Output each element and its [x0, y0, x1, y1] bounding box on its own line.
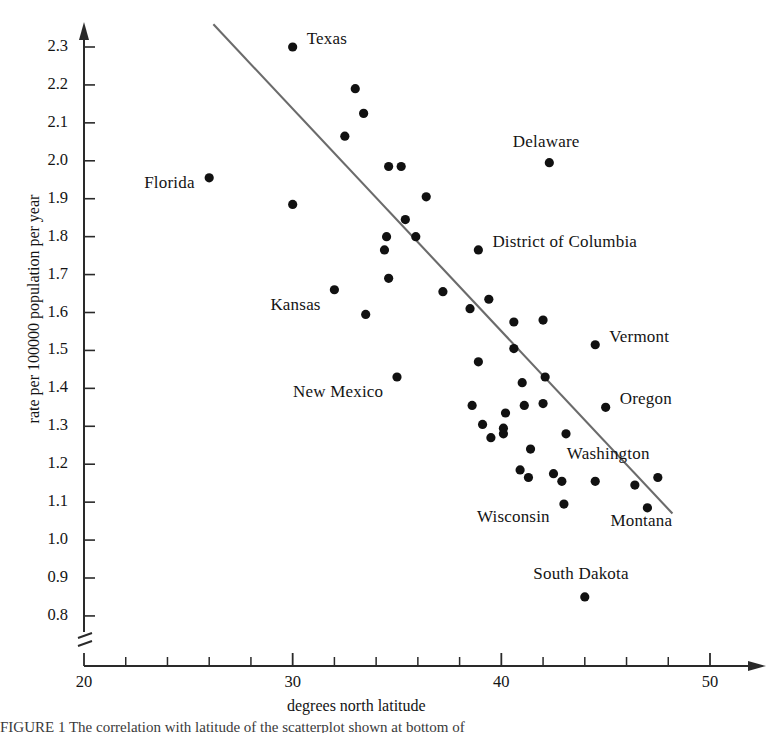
point-label-montana: Montana: [610, 511, 672, 531]
x-axis-ticks: [84, 653, 710, 666]
data-point: [526, 444, 535, 453]
data-point: [359, 109, 368, 118]
y-tick-label: 1.8: [22, 226, 68, 246]
data-point: [518, 378, 527, 387]
data-point-labeled: [559, 499, 568, 508]
point-label-new-mexico: New Mexico: [293, 382, 383, 402]
data-point: [499, 429, 508, 438]
y-tick-label: 1.9: [22, 188, 68, 208]
data-point: [484, 295, 493, 304]
data-point: [411, 232, 420, 241]
y-tick-label: 1.1: [22, 491, 68, 511]
y-tick-label: 2.3: [22, 36, 68, 56]
x-axis-title: degrees north latitude: [287, 697, 426, 715]
data-point-labeled: [474, 245, 483, 254]
y-tick-label: 1.5: [22, 339, 68, 359]
y-tick-label: 0.8: [22, 605, 68, 625]
x-tick-label: 30: [273, 672, 313, 692]
data-point-labeled: [288, 42, 297, 51]
scatter-plot-canvas: [0, 0, 774, 733]
x-tick-label: 50: [690, 672, 730, 692]
point-label-washington: Washington: [567, 444, 650, 464]
data-point: [380, 245, 389, 254]
data-point: [538, 315, 547, 324]
data-point: [340, 132, 349, 141]
data-point-labeled: [580, 592, 589, 601]
data-point: [591, 477, 600, 486]
data-point-labeled: [205, 173, 214, 182]
point-label-district-of-columbia: District of Columbia: [492, 232, 637, 252]
data-points: [205, 42, 663, 601]
data-point: [557, 477, 566, 486]
data-point: [422, 192, 431, 201]
data-point-labeled: [330, 285, 339, 294]
data-point-labeled: [545, 158, 554, 167]
data-point: [509, 317, 518, 326]
y-tick-label: 1.6: [22, 302, 68, 322]
y-tick-label: 1.0: [22, 529, 68, 549]
y-tick-label: 1.2: [22, 453, 68, 473]
y-tick-label: 1.7: [22, 264, 68, 284]
data-point: [361, 310, 370, 319]
data-point-labeled: [392, 372, 401, 381]
data-point: [524, 473, 533, 482]
data-point: [401, 215, 410, 224]
data-point: [509, 344, 518, 353]
data-point: [630, 480, 639, 489]
point-label-kansas: Kansas: [270, 295, 320, 315]
y-axis-ticks: [84, 47, 95, 616]
point-label-vermont: Vermont: [609, 327, 669, 347]
x-tick-label: 40: [481, 672, 521, 692]
y-tick-label: 2.0: [22, 150, 68, 170]
point-label-oregon: Oregon: [620, 389, 672, 409]
data-point: [288, 200, 297, 209]
data-point: [397, 162, 406, 171]
x-tick-label: 20: [64, 672, 104, 692]
point-label-florida: Florida: [144, 173, 195, 193]
y-axis-arrow: [79, 22, 89, 40]
y-tick-label: 1.4: [22, 377, 68, 397]
data-point: [438, 287, 447, 296]
point-label-delaware: Delaware: [513, 132, 580, 152]
data-point: [486, 433, 495, 442]
data-point: [561, 429, 570, 438]
data-point-labeled: [591, 340, 600, 349]
point-label-wisconsin: Wisconsin: [477, 507, 550, 527]
point-label-south-dakota: South Dakota: [533, 564, 628, 584]
data-point: [478, 420, 487, 429]
data-point: [516, 465, 525, 474]
point-label-texas: Texas: [307, 29, 347, 49]
data-point: [351, 84, 360, 93]
data-point: [501, 408, 510, 417]
data-point: [520, 401, 529, 410]
y-axis-break-icon: [78, 633, 92, 646]
y-tick-label: 0.9: [22, 567, 68, 587]
regression-trend-line: [213, 24, 672, 513]
y-tick-label: 1.3: [22, 415, 68, 435]
data-point: [384, 162, 393, 171]
figure-caption: FIGURE 1 The correlation with latitude o…: [0, 719, 774, 733]
data-point: [541, 372, 550, 381]
y-tick-label: 2.1: [22, 112, 68, 132]
data-point: [549, 469, 558, 478]
x-axis-arrow: [748, 661, 766, 671]
data-point: [384, 274, 393, 283]
data-point: [468, 401, 477, 410]
data-point: [538, 399, 547, 408]
y-tick-label: 2.2: [22, 74, 68, 94]
data-point: [382, 232, 391, 241]
data-point: [465, 304, 474, 313]
data-point-labeled: [601, 403, 610, 412]
data-point: [474, 357, 483, 366]
data-point-labeled: [653, 473, 662, 482]
